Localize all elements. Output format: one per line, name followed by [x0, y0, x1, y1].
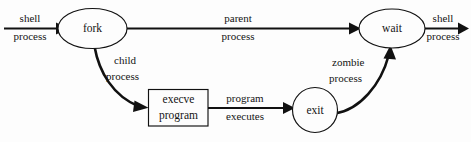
node-fork[interactable]: fork [58, 9, 127, 49]
edge-child-arrowhead [133, 101, 149, 113]
zombie-label-line2: process [329, 72, 362, 84]
child-label-line1: child [114, 54, 136, 66]
node-wait[interactable]: wait [359, 9, 425, 48]
program-label-line2: executes [226, 110, 264, 122]
wait-label: wait [382, 22, 403, 34]
zombie-label-line1: zombie [332, 56, 364, 68]
edge-exitflow-arrowhead [458, 23, 469, 35]
node-exit[interactable]: exit [293, 88, 338, 133]
exitflow-label-line2: process [427, 30, 460, 42]
edge-label-entry: shell process [14, 12, 47, 42]
entry-label-line2: process [14, 30, 47, 42]
edge-label-parent: parent process [222, 12, 255, 42]
diagram-canvas: fork wait execve program exit shell proc… [0, 0, 471, 142]
parent-label-line1: parent [224, 12, 251, 24]
execve-label-line2: program [159, 109, 198, 122]
exit-label: exit [306, 104, 324, 116]
edge-label-program: program executes [226, 92, 264, 122]
edge-label-exitflow: shell process [427, 12, 460, 42]
child-label-line2: process [106, 70, 139, 82]
edge-label-child: child process [106, 54, 139, 82]
parent-label-line2: process [222, 30, 255, 42]
execve-label-line1: execve [163, 93, 195, 105]
fork-label: fork [83, 22, 102, 34]
exitflow-label-line1: shell [433, 12, 454, 24]
node-execve-program[interactable]: execve program [149, 90, 209, 127]
program-label-line1: program [226, 92, 264, 104]
process-lifecycle-diagram: fork wait execve program exit shell proc… [0, 0, 471, 142]
entry-label-line1: shell [20, 12, 41, 24]
edge-label-zombie: zombie process [329, 56, 364, 84]
